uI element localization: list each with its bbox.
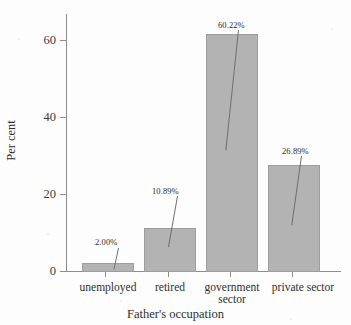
x-axis-title: Father's occupation	[0, 307, 351, 322]
x-category-label-private-sector: private sector	[259, 281, 347, 293]
value-label-government-sector: 60.22%	[218, 21, 245, 30]
y-tick-mark-0	[60, 271, 66, 272]
scan-speckle	[47, 233, 49, 235]
bar-unemployed	[82, 263, 134, 272]
y-axis-line	[66, 14, 67, 272]
y-tick-label-60: 60	[16, 34, 56, 47]
value-label-unemployed: 2.00%	[95, 238, 117, 247]
bar-private-sector	[268, 165, 320, 272]
y-tick-label-20: 20	[16, 188, 56, 201]
value-label-private-sector: 26.89%	[282, 147, 309, 156]
y-tick-mark-20	[60, 194, 66, 195]
y-tick-label-0: 0	[16, 265, 56, 278]
scan-speckle	[120, 300, 122, 302]
bar-chart-figure: 60 40 20 0 2.00% 10.89% 60.22% 26.89% un…	[0, 0, 351, 325]
y-tick-mark-40	[60, 117, 66, 118]
y-tick-mark-60	[60, 40, 66, 41]
bar-government-sector	[206, 34, 258, 272]
value-label-retired: 10.89%	[152, 187, 179, 196]
y-tick-label-40: 40	[16, 111, 56, 124]
y-axis-title: Per cent	[4, 111, 19, 171]
scan-speckle	[331, 28, 333, 30]
